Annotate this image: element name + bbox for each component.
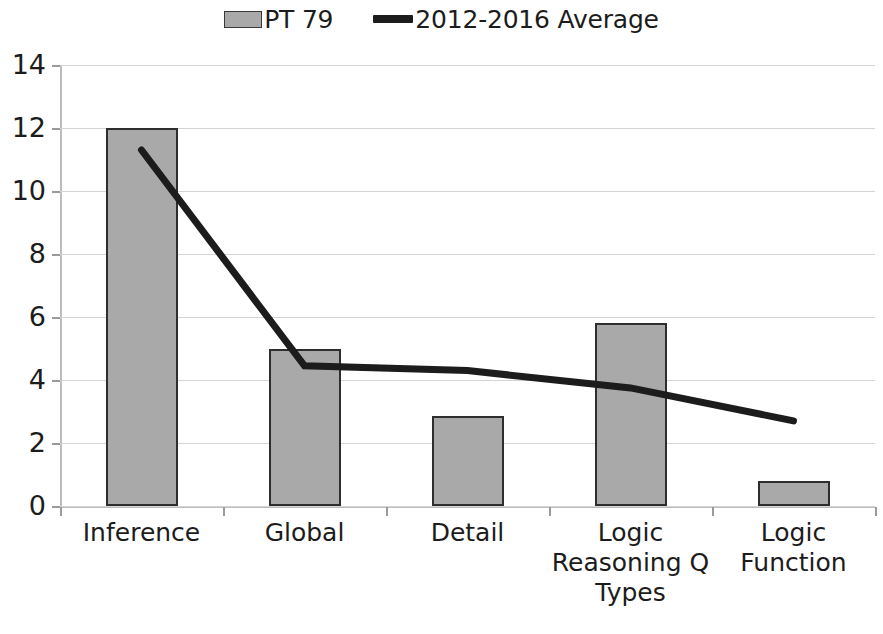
y-axis-tick-value: 6 [2, 303, 46, 330]
bar [432, 416, 504, 506]
gridline [60, 191, 875, 192]
bar [758, 481, 830, 506]
y-axis-tick-value: 14 [2, 51, 46, 78]
legend-entry-average: 2012-2016 Average [373, 6, 658, 33]
plot-area [60, 65, 875, 506]
chart-container: PT 79 2012-2016 Average 14121086420 Infe… [0, 0, 883, 634]
y-axis-tick-label: 8 [0, 240, 46, 267]
chart-legend: PT 79 2012-2016 Average [0, 2, 883, 36]
x-axis-tick-mark [386, 507, 388, 516]
y-axis-tick-value: 4 [2, 366, 46, 393]
gridline [60, 128, 875, 129]
gridline [60, 65, 875, 66]
y-axis-tick-label: 6 [0, 303, 46, 330]
bar [106, 128, 178, 506]
x-axis-tick-mark [223, 507, 225, 516]
line-swatch-icon [373, 15, 413, 23]
gridline [60, 254, 875, 255]
x-axis-category-label: Inference [60, 518, 223, 548]
x-axis-tick-mark [875, 507, 877, 516]
y-axis-tick-value: 10 [2, 177, 46, 204]
y-axis-tick-label: 14 [0, 51, 46, 78]
y-axis-tick-label: 0 [0, 492, 46, 519]
x-axis-category-label: Detail [386, 518, 549, 548]
y-axis-tick-label: 2 [0, 429, 46, 456]
x-axis-category-label: Global [223, 518, 386, 548]
bar [269, 349, 341, 507]
bar [595, 323, 667, 506]
gridline [60, 506, 875, 507]
legend-label-average: 2012-2016 Average [415, 6, 658, 33]
x-axis-tick-mark [712, 507, 714, 516]
y-axis-tick-value: 8 [2, 240, 46, 267]
bar-swatch-icon [224, 11, 262, 28]
legend-entry-pt79: PT 79 [224, 6, 333, 33]
y-axis-tick-label: 10 [0, 177, 46, 204]
y-axis-tick-value: 2 [2, 429, 46, 456]
x-axis-tick-mark [549, 507, 551, 516]
gridline [60, 317, 875, 318]
gridline [60, 380, 875, 381]
y-axis-tick-label: 12 [0, 114, 46, 141]
legend-label-pt79: PT 79 [264, 6, 333, 33]
x-axis-category-label: Logic Function [712, 518, 875, 578]
x-axis-tick-mark [60, 507, 62, 516]
y-axis-tick-value: 0 [2, 492, 46, 519]
y-axis-tick-label: 4 [0, 366, 46, 393]
y-axis-tick-value: 12 [2, 114, 46, 141]
x-axis-category-label: Logic Reasoning Q Types [549, 518, 712, 608]
